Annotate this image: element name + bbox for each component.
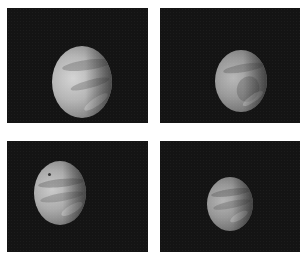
planet-disk (52, 46, 112, 118)
planet-disk (215, 50, 267, 112)
photo-panel-top-left (7, 8, 148, 123)
photo-panel-bottom-left (7, 141, 148, 252)
photo-panel-bottom-right (160, 141, 300, 252)
photo-panel-top-right (160, 8, 300, 123)
planet-disk (207, 177, 253, 231)
planet-disk (34, 161, 86, 225)
